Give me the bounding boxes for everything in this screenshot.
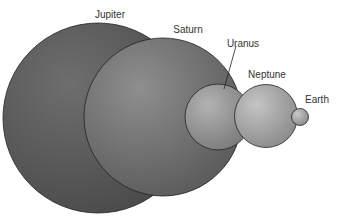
- neptune-label: Neptune: [248, 70, 286, 80]
- earth-circle: [292, 109, 309, 126]
- saturn-label: Saturn: [173, 25, 202, 35]
- earth-label: Earth: [305, 95, 329, 105]
- uranus-label: Uranus: [227, 39, 259, 49]
- jupiter-label: Jupiter: [95, 10, 125, 20]
- neptune-circle: [235, 85, 298, 148]
